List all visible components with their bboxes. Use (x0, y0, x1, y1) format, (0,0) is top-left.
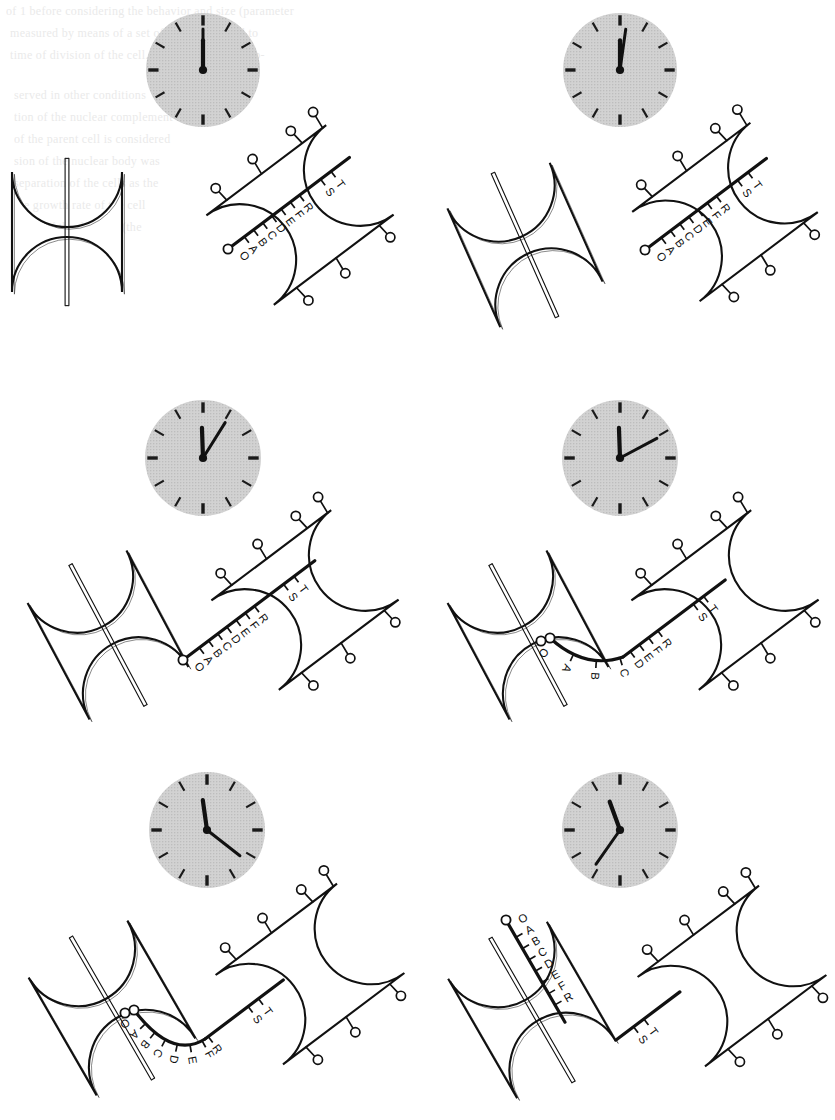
pin-marker-head[interactable] (637, 180, 646, 189)
pin-marker-head[interactable] (766, 266, 775, 275)
pin-marker-head[interactable] (818, 993, 827, 1002)
pin-marker-head[interactable] (810, 230, 819, 239)
cell-outline-right[interactable] (631, 510, 818, 690)
pin-marker-head[interactable] (319, 866, 328, 875)
track-tick (331, 171, 336, 177)
pin-marker-head[interactable] (729, 292, 738, 301)
right-cell-6[interactable] (638, 868, 828, 1067)
pin-marker-head[interactable] (735, 1057, 744, 1066)
pin-marker-head[interactable] (313, 1055, 322, 1064)
pin-marker-head[interactable] (346, 654, 355, 663)
track-label: A (127, 1027, 141, 1041)
pin-marker-head[interactable] (341, 269, 350, 278)
track-tick (536, 967, 542, 971)
pin-stalk (384, 610, 392, 619)
pin-stalk (228, 951, 236, 960)
pin-marker-head[interactable] (719, 887, 728, 896)
pin-stalk (379, 225, 387, 234)
right-cell-1[interactable] (206, 107, 394, 305)
track-tick (529, 956, 535, 960)
origin-marker[interactable] (640, 245, 649, 254)
pin-marker-head[interactable] (733, 105, 742, 114)
pin-marker-head[interactable] (729, 681, 738, 690)
pin-marker-head[interactable] (636, 569, 645, 578)
pin-marker-head[interactable] (386, 233, 395, 242)
track-label: S (636, 1033, 650, 1047)
pin-marker-head[interactable] (811, 618, 820, 627)
pin-marker-head[interactable] (680, 915, 689, 924)
pin-stalk (650, 953, 658, 962)
left-cell-1[interactable] (12, 158, 124, 305)
cell-outline-left[interactable] (448, 550, 609, 719)
track-tick (661, 238, 666, 244)
pin-marker-head[interactable] (216, 569, 225, 578)
pin-marker-head[interactable] (643, 945, 652, 954)
pin-marker-head[interactable] (258, 913, 267, 922)
track-tick (254, 230, 259, 236)
clock-face-panel-6 (562, 772, 678, 888)
pin-stalk (719, 519, 728, 528)
track-label: S (696, 610, 710, 624)
cell-slit-end (151, 1078, 154, 1080)
pin-marker-head[interactable] (221, 943, 230, 952)
pin-marker-head[interactable] (773, 1030, 782, 1039)
left-cell-5[interactable] (29, 921, 198, 1098)
pin-marker-head[interactable] (711, 124, 720, 133)
pin-marker-head[interactable] (297, 885, 306, 894)
pin-stalk (326, 874, 333, 886)
clock-center-pin (616, 454, 624, 462)
pin-marker-head[interactable] (309, 107, 318, 116)
pin-marker-head[interactable] (711, 511, 720, 520)
pin-marker-head[interactable] (304, 296, 313, 305)
right-cell-4[interactable] (631, 492, 819, 690)
pin-marker-head[interactable] (351, 1028, 360, 1037)
pin-marker-head[interactable] (673, 151, 682, 160)
cell-outline-right[interactable] (638, 886, 827, 1067)
pin-marker-head[interactable] (673, 539, 682, 548)
origin-marker[interactable] (501, 915, 510, 924)
left-cell-4[interactable] (448, 550, 611, 721)
cell-outline-left[interactable] (12, 172, 122, 292)
clock-face-panel-4 (562, 400, 678, 516)
origin-marker[interactable] (223, 244, 232, 253)
left-cell-2[interactable] (447, 163, 605, 330)
track-tick (227, 627, 232, 633)
cell-outline-left[interactable] (28, 550, 189, 719)
pin-marker-head[interactable] (766, 654, 775, 663)
left-cell-3[interactable] (28, 550, 191, 721)
cell-outline-left[interactable] (447, 163, 602, 327)
pin-marker-head[interactable] (734, 492, 743, 501)
pin-stalk (346, 1017, 353, 1029)
origin-marker[interactable] (545, 633, 554, 642)
pin-stalk (260, 548, 267, 559)
pin-marker-head[interactable] (286, 126, 295, 135)
track-tick (649, 638, 654, 644)
left-cell-6[interactable] (448, 922, 618, 1101)
cell-outline-left[interactable] (29, 921, 196, 1096)
pin-marker-head[interactable] (248, 154, 257, 163)
track-tick (523, 945, 529, 949)
track-tick (245, 613, 250, 619)
right-cell-5[interactable] (216, 866, 406, 1065)
pin-marker-head[interactable] (396, 991, 405, 1000)
pin-marker-head[interactable] (309, 681, 318, 690)
cell-outline-right[interactable] (216, 884, 405, 1065)
track-tick (218, 634, 223, 640)
origin-marker[interactable] (129, 1005, 138, 1014)
pin-marker-head[interactable] (291, 511, 300, 520)
pin-marker-head[interactable] (253, 539, 262, 548)
pin-marker-head[interactable] (391, 618, 400, 627)
origin-marker[interactable] (120, 1008, 129, 1017)
clock-center-pin (199, 454, 207, 462)
origin-marker[interactable] (178, 655, 187, 664)
pin-marker-head[interactable] (741, 868, 750, 877)
pin-stalk (294, 134, 303, 143)
cell-slit-end (572, 1081, 575, 1083)
track-tick (748, 172, 753, 178)
cell-outline-right[interactable] (211, 510, 398, 690)
origin-marker[interactable] (536, 636, 545, 645)
track-tick (202, 1041, 206, 1048)
cell-outline-left[interactable] (448, 922, 616, 1099)
pin-marker-head[interactable] (314, 492, 323, 501)
pin-marker-head[interactable] (211, 184, 220, 193)
